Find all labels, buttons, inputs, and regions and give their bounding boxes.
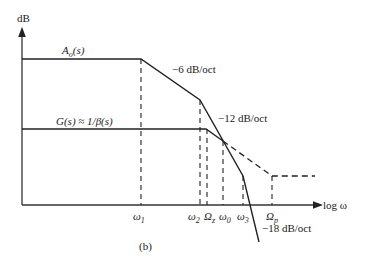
g-curve: [22, 129, 223, 141]
g-label: G(s) ≈ 1/β(s): [56, 115, 113, 128]
tick-w0: ω0: [219, 210, 231, 225]
tick-w2: ω2: [188, 210, 200, 225]
bode-diagram: dB log ω Ao(s) G(s) ≈ 1/β(s) −6 dB/oct −…: [0, 0, 365, 265]
tick-w1: ω1: [133, 210, 145, 225]
slope-6-label: −6 dB/oct: [172, 63, 216, 75]
tick-wz: Ωz: [204, 210, 216, 225]
tick-w3: ω3: [237, 210, 249, 225]
slope-18-label: −18 dB/oct: [262, 222, 311, 234]
g-curve-dashed: [223, 141, 315, 176]
a0-label: Ao(s): [61, 44, 85, 59]
y-axis-label: dB: [17, 12, 30, 24]
figure-caption: (b): [139, 240, 152, 253]
slope-12-label: −12 dB/oct: [218, 112, 267, 124]
x-axis-label: log ω: [323, 199, 347, 211]
